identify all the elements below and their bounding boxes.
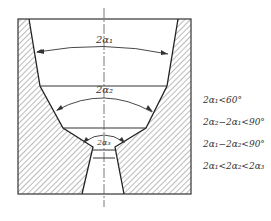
angle-arc-alpha2 (57, 98, 152, 112)
condition-3: 2α₁−2α₂<90° (202, 139, 265, 149)
angle-label-alpha3: 2α₃ (96, 138, 111, 147)
right-hatched-wall (115, 19, 191, 194)
condition-2: 2α₂−2α₁<90° (202, 117, 265, 127)
condition-4: 2α₁<2α₂<2α₃ (202, 161, 265, 171)
arrowhead-alpha2-left (56, 105, 63, 111)
condition-1: 2α₁<60° (202, 95, 242, 105)
arrowhead-alpha1-right (161, 50, 168, 55)
die-cross-section-diagram: 2α₁ 2α₂ 2α₃ 2α₁<60° 2α₂−2α₁<90° 2α₁−2α₂<… (0, 0, 271, 221)
angle-label-alpha1: 2α₁ (95, 34, 113, 45)
left-hatched-wall (18, 19, 93, 194)
angle-arc-alpha1 (37, 46, 168, 54)
angle-label-alpha2: 2α₂ (95, 84, 113, 95)
